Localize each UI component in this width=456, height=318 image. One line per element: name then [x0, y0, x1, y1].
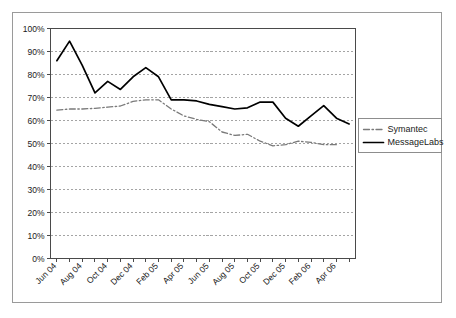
x-axis-tick-label: Dec 04: [108, 261, 134, 287]
x-axis-tick-label: Oct 05: [237, 261, 262, 286]
y-axis-tick-label: 40%: [27, 162, 44, 172]
x-axis-tick-label: Apr 06: [313, 261, 338, 286]
x-axis-tick-label: Aug 05: [210, 261, 236, 287]
series-line-messagelabs: [57, 41, 349, 126]
legend-label-messagelabs: MessageLabs: [388, 137, 445, 147]
x-axis-tick-label: Dec 05: [261, 261, 287, 287]
chart-legend: SymantecMessageLabs: [359, 119, 445, 153]
y-axis-tick-label: 80%: [27, 70, 44, 80]
y-axis-tick-label: 10%: [27, 231, 44, 241]
y-axis-labels-group: 0%10%20%30%40%50%60%70%80%90%100%: [23, 24, 45, 264]
gridlines-group: [51, 52, 356, 236]
y-axis-tick-label: 30%: [27, 185, 44, 195]
x-axis-tick-label: Jun 05: [186, 261, 211, 286]
y-axis-tick-label: 70%: [27, 93, 44, 103]
percentage-line-chart: 0%10%20%30%40%50%60%70%80%90%100% Jun 04…: [0, 0, 456, 318]
y-axis-tick-label: 0%: [32, 254, 45, 264]
y-axis-ticks-group: [47, 29, 51, 259]
x-axis-tick-label: Jun 04: [33, 261, 58, 286]
data-series-group: [57, 41, 349, 146]
x-axis-tick-label: Apr 05: [161, 261, 186, 286]
y-axis-tick-label: 60%: [27, 116, 44, 126]
y-axis-tick-label: 90%: [27, 47, 44, 57]
x-axis-tick-label: Oct 04: [84, 261, 109, 286]
y-axis-tick-label: 20%: [27, 208, 44, 218]
y-axis-tick-label: 50%: [27, 139, 44, 149]
y-axis-tick-label: 100%: [23, 24, 45, 34]
x-axis-tick-label: Feb 06: [287, 261, 313, 287]
x-axis-labels-group: Jun 04Aug 04Oct 04Dec 04Feb 05Apr 05Jun …: [33, 261, 338, 287]
x-axis-tick-label: Aug 04: [58, 261, 84, 287]
series-line-symantec: [57, 100, 337, 146]
legend-label-symantec: Symantec: [388, 124, 429, 134]
x-axis-tick-label: Feb 05: [134, 261, 160, 287]
